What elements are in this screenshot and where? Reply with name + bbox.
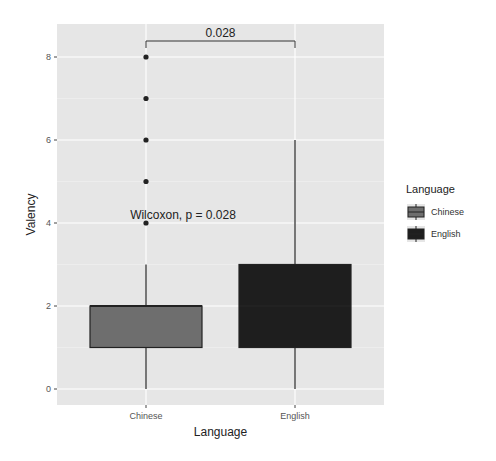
y-axis-title: Valency — [24, 194, 38, 236]
box-body — [90, 306, 202, 348]
outlier-point — [143, 137, 148, 142]
y-tick-label: 6 — [46, 135, 51, 145]
x-axis-title: Language — [194, 425, 248, 439]
outlier-point — [143, 179, 148, 184]
legend-label: Chinese — [431, 207, 464, 217]
outlier-point — [143, 96, 148, 101]
y-axis: 02468Valency — [24, 52, 57, 394]
bracket-p-value: 0.028 — [205, 26, 235, 40]
legend-item-chinese: Chinese — [407, 204, 464, 220]
x-axis: ChineseEnglishLanguage — [129, 405, 309, 439]
x-tick-label: English — [280, 411, 310, 421]
legend-label: English — [431, 229, 461, 239]
boxplot-chart: 02468Valency ChineseEnglishLanguage 0.02… — [0, 0, 496, 461]
outlier-point — [143, 54, 148, 59]
y-tick-label: 4 — [46, 218, 51, 228]
legend-title: Language — [406, 183, 455, 195]
y-tick-label: 2 — [46, 301, 51, 311]
y-tick-label: 8 — [46, 52, 51, 62]
y-tick-label: 0 — [46, 384, 51, 394]
wilcoxon-label: Wilcoxon, p = 0.028 — [130, 208, 236, 222]
legend: LanguageChineseEnglish — [406, 183, 464, 242]
legend-item-english: English — [407, 226, 461, 242]
x-tick-label: Chinese — [129, 411, 162, 421]
